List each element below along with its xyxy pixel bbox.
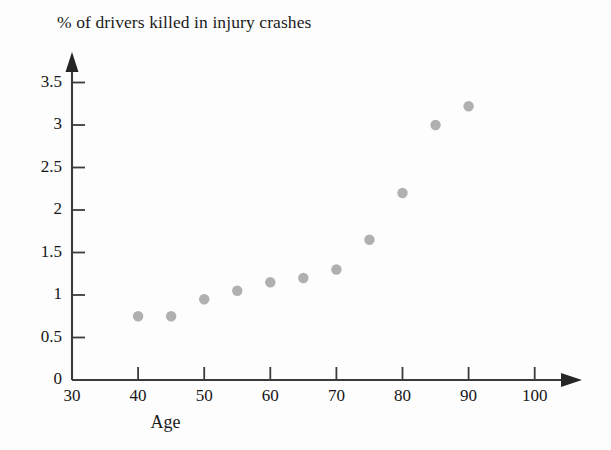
data-point: [397, 188, 407, 198]
y-tick-label: 2.5: [0, 157, 62, 177]
x-tick-label: 100: [505, 386, 565, 406]
scatter-plot-figure: % of drivers killed in injury crashes 00…: [0, 0, 611, 450]
y-tick-marks: [73, 83, 85, 338]
data-point: [298, 273, 308, 283]
data-point: [166, 311, 176, 321]
data-point: [331, 264, 341, 274]
x-tick-label: 50: [174, 386, 234, 406]
data-points-group: [133, 101, 474, 321]
y-tick-label: 2: [0, 199, 62, 219]
data-point: [199, 294, 209, 304]
x-tick-label: 80: [373, 386, 433, 406]
y-tick-label: 1: [0, 284, 62, 304]
x-axis-arrow-icon: [561, 373, 582, 387]
x-tick-label: 60: [240, 386, 300, 406]
data-point: [430, 120, 440, 130]
data-point: [133, 311, 143, 321]
y-tick-label: 1.5: [0, 242, 62, 262]
y-axis-arrow-icon: [66, 52, 79, 72]
x-tick-label: 90: [439, 386, 499, 406]
plot-canvas: [0, 0, 611, 450]
x-axis-title: Age: [0, 412, 611, 433]
y-tick-label: 3.5: [0, 72, 62, 92]
x-tick-marks: [138, 367, 535, 379]
axes-group: [66, 52, 583, 387]
x-tick-label: 30: [42, 386, 102, 406]
data-point: [364, 235, 374, 245]
x-tick-label: 70: [306, 386, 366, 406]
data-point: [265, 277, 275, 287]
y-tick-label: 3: [0, 114, 62, 134]
y-tick-label: 0.5: [0, 327, 62, 347]
x-tick-label: 40: [108, 386, 168, 406]
data-point: [232, 286, 242, 296]
data-point: [463, 101, 473, 111]
